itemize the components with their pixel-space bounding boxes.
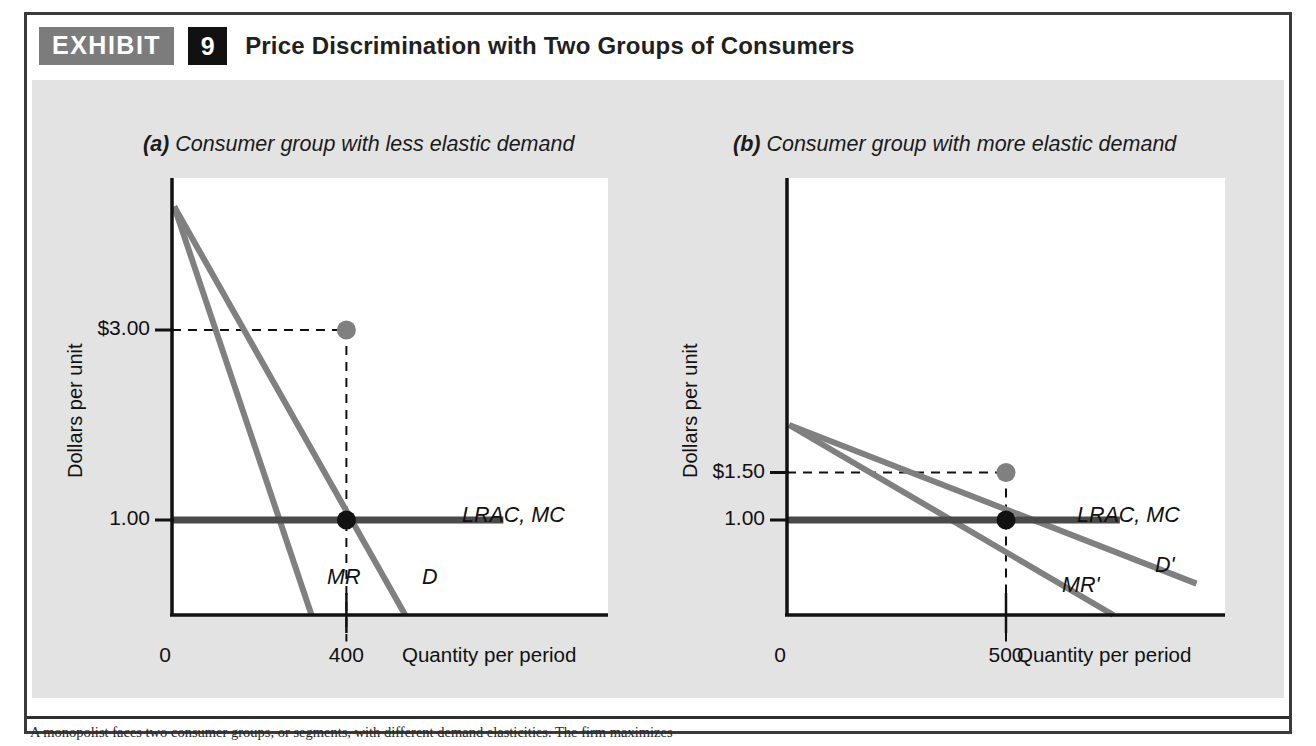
panel-a-origin-label: 0 — [148, 643, 182, 667]
panel-b-title: (b) Consumer group with more elastic dem… — [733, 132, 1176, 157]
panel-b-x-axis-label: Quantity per period — [1017, 643, 1191, 667]
panel-a-ytick-label-0: $3.00 — [40, 316, 150, 340]
panel-a-label-lracmc: LRAC, MC — [462, 503, 565, 528]
exhibit-title: Price Discrimination with Two Groups of … — [245, 32, 854, 60]
panel-b-xtick-label-0: 500 — [971, 643, 1041, 667]
exhibit-content-panel — [32, 80, 1284, 698]
panel-b-origin-label: 0 — [763, 643, 797, 667]
panel-a-ytick-label-1: 1.00 — [40, 506, 150, 530]
exhibit-root: EXHIBIT 9 Price Discrimination with Two … — [0, 0, 1316, 746]
caption-divider — [27, 716, 1289, 719]
panel-a-x-axis-label: Quantity per period — [402, 643, 576, 667]
panel-b-label-mr: MR' — [1062, 573, 1100, 598]
exhibit-caption: A monopolist faces two consumer groups, … — [30, 723, 1286, 745]
panel-a-y-axis-label: Dollars per unit — [64, 343, 87, 478]
panel-a-label-d: D — [422, 565, 438, 590]
exhibit-number-badge: 9 — [188, 27, 227, 65]
exhibit-badge: EXHIBIT — [39, 27, 174, 65]
panel-a-title: (a) Consumer group with less elastic dem… — [143, 132, 574, 157]
panel-b-ytick-label-0: $1.50 — [655, 459, 765, 483]
panel-b-label-d: D' — [1155, 553, 1175, 578]
panel-b-label-lracmc: LRAC, MC — [1077, 503, 1180, 528]
exhibit-header: EXHIBIT 9 Price Discrimination with Two … — [27, 15, 1289, 77]
panel-b-ytick-label-1: 1.00 — [655, 506, 765, 530]
panel-a-label-mr: MR — [327, 565, 360, 590]
panel-a-xtick-label-0: 400 — [311, 643, 381, 667]
